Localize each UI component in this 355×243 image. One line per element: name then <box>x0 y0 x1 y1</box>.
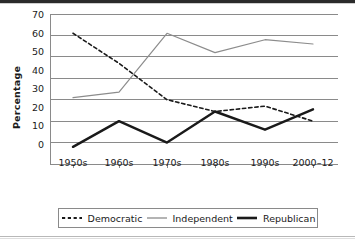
series-line-republican <box>73 109 313 147</box>
gridlines <box>50 14 338 164</box>
y-tick-label-40: 40 <box>22 65 44 76</box>
legend-swatch-independent <box>146 213 168 223</box>
series-line-democratic <box>73 33 313 121</box>
y-tick-label-70: 70 <box>22 9 44 20</box>
y-tick-label-60: 60 <box>22 28 44 39</box>
legend-swatch-democratic <box>61 213 83 223</box>
y-tick-label-0: 0 <box>22 139 44 150</box>
chart-canvas <box>0 6 355 236</box>
series-line-independent <box>73 33 313 97</box>
bottom-divider-light <box>0 238 355 239</box>
legend-label-republican: Republican <box>263 213 315 224</box>
plot-area: Percentage 70 60 50 40 30 20 10 0 1950s … <box>0 6 355 236</box>
chart-figure: Percentage 70 60 50 40 30 20 10 0 1950s … <box>0 0 355 243</box>
top-divider-light <box>0 3 355 4</box>
legend-item-independent: Independent <box>146 213 233 224</box>
y-tick-label-20: 20 <box>22 102 44 113</box>
legend-item-republican: Republican <box>236 213 315 224</box>
data-series <box>73 33 313 147</box>
bottom-divider <box>0 236 355 237</box>
y-tick-label-10: 10 <box>22 120 44 131</box>
legend-swatch-republican <box>236 213 258 223</box>
x-tick-label-2000-12: 2000–12 <box>283 157 343 168</box>
y-axis-label: Percentage <box>11 58 22 138</box>
y-tick-label-50: 50 <box>22 46 44 57</box>
legend-label-democratic: Democratic <box>88 213 143 224</box>
chart-legend: Democratic Independent Republican <box>58 208 318 228</box>
y-tick-label-30: 30 <box>22 83 44 94</box>
legend-label-independent: Independent <box>173 213 233 224</box>
legend-item-democratic: Democratic <box>61 213 143 224</box>
